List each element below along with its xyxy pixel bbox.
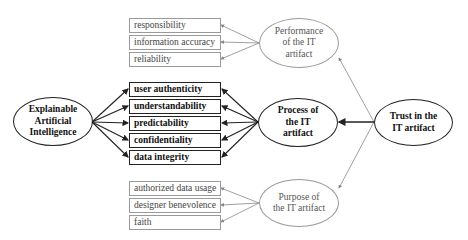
item-confidentiality: confidentiality	[129, 133, 221, 148]
item-user-authenticity: user authenticity	[129, 82, 221, 97]
item-reliability: reliability	[129, 52, 221, 67]
node-trust: Trust in the IT artifact	[374, 99, 453, 146]
node-purpose: Purpose of the IT artifact	[259, 179, 339, 227]
item-information-accuracy: information accuracy	[129, 35, 221, 50]
node-performance: Performance of the IT artifact	[259, 18, 339, 68]
item-understandability: understandability	[129, 99, 221, 114]
item-authorized-data-usage: authorized data usage	[129, 181, 221, 196]
item-data-integrity: data integrity	[129, 150, 221, 165]
item-designer-benevolence: designer benevolence	[129, 198, 221, 213]
item-faith: faith	[129, 215, 221, 230]
item-responsibility: responsibility	[129, 18, 221, 33]
node-process: Process of the IT artifact	[258, 98, 338, 147]
node-explainable-ai: Explainable Artificial Intelligence	[13, 97, 93, 146]
item-predictability: predictability	[129, 116, 221, 131]
